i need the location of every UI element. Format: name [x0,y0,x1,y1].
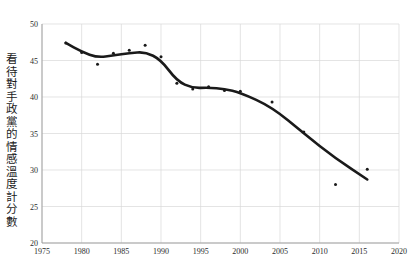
data-point [144,44,147,47]
plot-area: 1975198019851990199520002005201020152020… [0,0,414,278]
chart-figure: 看待對手政黨的情感溫度計分數 1975198019851990199520002… [0,0,414,278]
data-point [366,168,369,171]
y-tick-label: 35 [30,130,38,139]
data-point [175,82,178,85]
x-tick-label: 1995 [193,247,209,256]
data-point [64,41,67,44]
y-tick-label: 25 [30,203,38,212]
x-tick-label: 2000 [232,247,248,256]
y-tick-label: 20 [30,239,38,248]
data-point [207,85,210,88]
data-point [96,63,99,66]
y-tick-label: 30 [30,166,38,175]
y-tick-label: 50 [30,20,38,29]
x-tick-label: 2015 [351,247,367,256]
data-point [223,89,226,92]
data-point [191,87,194,90]
data-point [239,90,242,93]
data-point [271,101,274,104]
y-tick-label: 40 [30,93,38,102]
x-tick-label: 1980 [74,247,90,256]
x-tick-label: 2020 [391,247,407,256]
trend-line [66,43,367,180]
y-tick-label: 45 [30,57,38,66]
x-tick-label: 1985 [113,247,129,256]
data-point [80,51,83,54]
x-tick-label: 1990 [153,247,169,256]
data-point [160,55,163,58]
data-point [334,183,337,186]
x-tick-label: 1975 [34,247,50,256]
x-tick-label: 2005 [272,247,288,256]
x-tick-label: 2010 [312,247,328,256]
data-point [302,131,305,134]
data-point [112,52,115,55]
data-point [128,49,131,52]
